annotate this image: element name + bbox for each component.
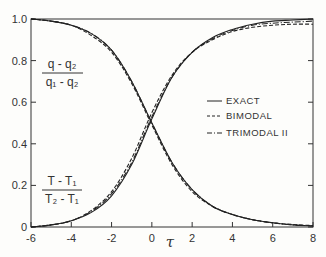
q-ratio-numerator: q - q₂ <box>48 57 77 71</box>
x-tick-label: -2 <box>107 232 117 244</box>
x-tick-label: 0 <box>149 232 155 244</box>
x-axis-label: τ <box>166 233 175 251</box>
x-tick-label: 8 <box>310 232 316 244</box>
q-ratio-denominator: q₁ - q₂ <box>46 75 79 89</box>
y-tick-label: 0.8 <box>12 55 27 67</box>
t-ratio-numerator: T - T₁ <box>48 174 77 188</box>
y-tick-label: 1.0 <box>12 13 27 25</box>
y-tick-label: 0 <box>21 221 27 233</box>
x-tick-label: -6 <box>26 232 36 244</box>
x-tick-label: 2 <box>189 232 195 244</box>
chart: -6-4-20246800.20.40.60.81.0 q - q₂ q₁ - … <box>0 0 326 257</box>
x-tick-label: 6 <box>270 232 276 244</box>
t-ratio-annotation: T - T₁ T₂ - T₁ <box>42 174 82 206</box>
legend-label-bimodal: BIMODAL <box>226 110 272 121</box>
legend-label-exact: EXACT <box>226 95 260 106</box>
x-tick-label: 4 <box>229 232 235 244</box>
y-tick-label: 0.2 <box>12 179 27 191</box>
x-tick-label: -4 <box>66 232 76 244</box>
t-ratio-denominator: T₂ - T₁ <box>45 192 79 206</box>
y-tick-label: 0.4 <box>12 138 27 150</box>
y-tick-label: 0.6 <box>12 96 27 108</box>
legend: EXACT BIMODAL TRIMODAL II <box>207 95 288 138</box>
legend-label-trimodal: TRIMODAL II <box>226 127 288 138</box>
q-ratio-annotation: q - q₂ q₁ - q₂ <box>42 57 83 89</box>
